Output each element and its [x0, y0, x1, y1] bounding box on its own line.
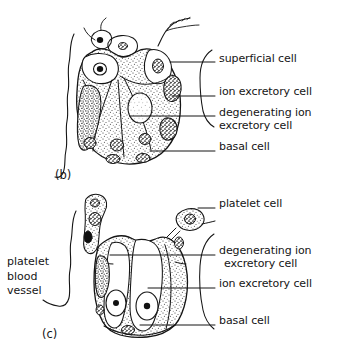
panel-b-basal-nucleus-3	[139, 134, 151, 145]
panel-c-platelet-nucleus	[185, 214, 196, 224]
panel-tag-b: (b)	[55, 168, 71, 182]
panel-c-brace	[200, 234, 214, 329]
panel-b-basal-nucleus-2	[111, 139, 124, 151]
panel-c-basal-nucleus-2	[96, 305, 104, 315]
panel-b-vessel-wall	[55, 34, 74, 177]
label-platelet-cell: platelet cell	[219, 198, 282, 211]
panel-b-large-apical-nucleolus	[97, 66, 103, 72]
panel-c-protrusion-nucleus-1	[91, 199, 100, 207]
label-degenerating-ion-c-line2: excretory cell	[224, 258, 297, 271]
panel-b-central-nucleus	[128, 93, 152, 123]
panel-b-basal-nucleus-4	[106, 155, 120, 164]
label-ion-excretory-cell-c: ion excretory cell	[219, 278, 312, 291]
panel-b-basal-nucleus-5	[136, 154, 150, 163]
panel-c-basal-nucleus-1	[175, 237, 184, 249]
panel-c-columnar-nucleolus-2	[144, 303, 150, 309]
panel-b-degenerating-cell-right-2	[160, 118, 177, 140]
panel-b-basal-nucleus-7	[119, 43, 128, 50]
label-degenerating-ion-line1: degenerating ion	[219, 107, 311, 120]
label-platelet-blood-vessel: platelet blood vessel	[7, 255, 49, 299]
panel-tag-c: (c)	[42, 327, 57, 341]
label-degenerating-ion-line2: excretory cell	[219, 120, 292, 133]
panel-c-protrusion-nucleus-2	[89, 213, 101, 226]
label-basal-cell: basal cell	[219, 141, 270, 154]
panel-b-apical-stalk	[84, 18, 106, 40]
platelet-blood-vessel-line-1: platelet	[7, 255, 49, 270]
panel-b-basal-nucleus-1	[84, 138, 96, 149]
label-ion-excretory-cell: ion excretory cell	[219, 86, 312, 99]
figure-drawing	[0, 0, 358, 360]
label-basal-cell-c: basal cell	[219, 315, 270, 328]
panel-c-columnar-nucleolus-1	[113, 300, 119, 306]
panel-b-superficial-nucleus	[153, 59, 164, 73]
label-degenerating-ion-c-line1: degenerating ion	[219, 245, 311, 258]
panel-c-protrusion-nucleus-3	[84, 231, 92, 243]
figure-root: superficial cell ion excretory cell dege…	[0, 0, 358, 360]
platelet-blood-vessel-line-3: vessel	[7, 284, 49, 299]
panel-b-drawing	[55, 18, 215, 178]
platelet-blood-vessel-line-2: blood	[7, 270, 49, 285]
panel-b-degenerating-cell-right	[164, 75, 181, 101]
panel-b-basal-nucleus-6	[97, 37, 103, 43]
label-superficial-cell: superficial cell	[219, 53, 297, 66]
panel-c-drawing	[43, 194, 215, 337]
